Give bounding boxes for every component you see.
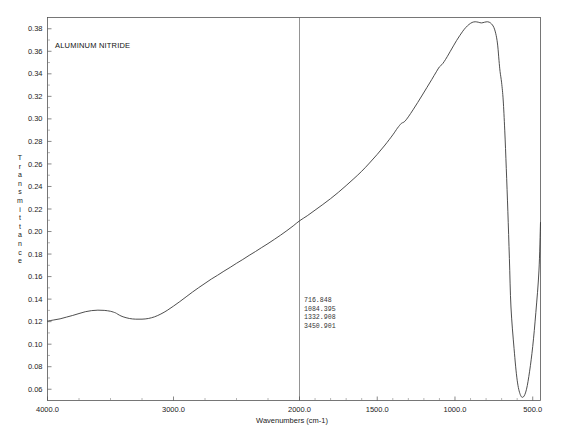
y-tick-label: 0.20: [28, 227, 43, 236]
y-tick-label: 0.10: [28, 340, 43, 349]
y-tick-label: 0.08: [28, 362, 43, 371]
y-tick-label: 0.14: [28, 295, 43, 304]
peak-label: 716.848: [304, 297, 332, 304]
y-axis-title: Transmittance: [17, 154, 23, 264]
x-tick-label: 500.0: [523, 405, 542, 414]
x-tick-label: 1500.0: [366, 405, 389, 414]
y-axis-title-letter: t: [19, 223, 21, 230]
y-axis-title-letter: n: [18, 180, 22, 187]
plot-frame: [48, 18, 541, 401]
peak-label: 1332.908: [304, 314, 336, 321]
y-axis-title-letter: r: [19, 163, 22, 170]
y-tick-label: 0.38: [28, 24, 43, 33]
y-axis-title-letter: e: [18, 257, 22, 264]
peak-label: 1084.395: [304, 306, 336, 313]
y-axis-title-letter: m: [17, 197, 23, 204]
y-tick-label: 0.28: [28, 137, 43, 146]
y-axis-title-letter: i: [19, 206, 21, 213]
y-axis-title-letter: s: [18, 188, 22, 195]
x-axis-title: Wavenumbers (cm-1): [256, 416, 328, 425]
x-tick-label: 1000.0: [444, 405, 467, 414]
y-axis-title-letter: n: [18, 240, 22, 247]
ir-spectrum-chart: 0.060.080.100.120.140.160.180.200.220.24…: [0, 0, 562, 437]
y-axis-title-letter: a: [18, 231, 22, 238]
x-tick-label: 2000.0: [288, 405, 311, 414]
y-tick-label: 0.30: [28, 114, 43, 123]
y-axis-title-letter: T: [18, 154, 23, 161]
y-tick-label: 0.12: [28, 317, 43, 326]
y-tick-label: 0.36: [28, 47, 43, 56]
y-axis-title-letter: a: [18, 171, 22, 178]
y-tick-label: 0.32: [28, 92, 43, 101]
y-tick-label: 0.34: [28, 69, 43, 78]
y-tick-label: 0.18: [28, 250, 43, 259]
peak-label: 3450.901: [304, 323, 336, 330]
x-tick-label: 3000.0: [162, 405, 185, 414]
x-tick-label: 4000.0: [36, 405, 59, 414]
chart-title: ALUMINUM NITRIDE: [55, 41, 130, 50]
y-tick-label: 0.22: [28, 205, 43, 214]
y-tick-label: 0.16: [28, 272, 43, 281]
spectrum-curve: [48, 22, 541, 398]
y-axis-title-letter: c: [18, 249, 22, 256]
x-axis: 4000.03000.02000.01500.01000.0500.0: [36, 397, 542, 414]
y-tick-label: 0.24: [28, 182, 43, 191]
chart-svg: 0.060.080.100.120.140.160.180.200.220.24…: [0, 0, 562, 437]
y-tick-label: 0.26: [28, 160, 43, 169]
y-tick-label: 0.06: [28, 385, 43, 394]
peak-label-list: 716.8481084.3951332.9083450.901: [304, 297, 336, 330]
y-axis-title-letter: t: [19, 214, 21, 221]
y-axis: 0.060.080.100.120.140.160.180.200.220.24…: [28, 24, 52, 400]
